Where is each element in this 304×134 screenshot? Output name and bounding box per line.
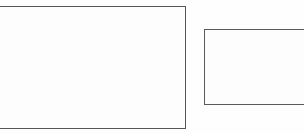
- small-rectangle[interactable]: [204, 29, 304, 105]
- diagram-canvas: [0, 0, 304, 134]
- large-rectangle[interactable]: [0, 6, 186, 129]
